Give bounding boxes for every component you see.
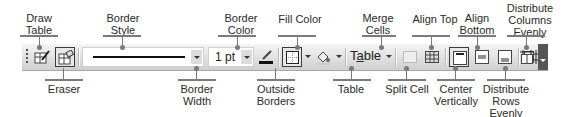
separator <box>345 48 346 66</box>
leader-line <box>45 79 83 81</box>
eraser-button[interactable] <box>55 47 75 67</box>
chevron-down-icon[interactable] <box>191 50 202 64</box>
fill-color-dropdown-arrow[interactable] <box>336 55 342 58</box>
table-menu-accelerator: a <box>357 48 364 63</box>
leader-line <box>178 79 216 81</box>
outside-borders-icon <box>285 50 301 66</box>
callout-eraser: Eraser <box>44 83 84 95</box>
draw-table-button[interactable] <box>32 47 52 67</box>
pencil-table-icon <box>34 49 50 65</box>
leader-dot <box>379 45 384 50</box>
center-vertically-icon <box>474 49 490 65</box>
callout-center-vertically: CenterVertically <box>430 83 482 107</box>
toolbar-options-chevron[interactable] <box>538 44 548 70</box>
callout-merge-cells: MergeCells <box>361 12 395 36</box>
callout-border-style: BorderStyle <box>104 12 142 36</box>
align-top-icon <box>452 50 468 66</box>
fill-color-button[interactable] <box>313 47 333 67</box>
border-width-value: 1 pt <box>215 50 235 64</box>
outside-borders-dropdown-arrow[interactable] <box>305 55 311 58</box>
leader-line <box>437 79 475 81</box>
eraser-icon <box>58 50 74 66</box>
callout-table: Table <box>331 83 371 95</box>
callout-outside-borders: OutsideBorders <box>253 83 299 107</box>
callout-fill-color: Fill Color <box>275 13 325 25</box>
table-menu-button[interactable]: Table <box>350 48 381 63</box>
leader-dot <box>429 45 434 50</box>
leader-dot <box>295 45 300 50</box>
center-vertically-button[interactable] <box>472 47 492 67</box>
leader-line <box>388 79 426 81</box>
split-cell-icon <box>424 49 440 65</box>
leader-line <box>333 79 371 81</box>
merge-cells-button[interactable] <box>400 47 420 67</box>
leader-dot <box>524 45 529 50</box>
callout-align-bottom: AlignBottom <box>457 12 497 36</box>
outside-borders-button[interactable] <box>282 47 302 67</box>
distribute-columns-icon <box>519 49 535 65</box>
callout-distribute-rows-evenly: DistributeRowsEvenly <box>481 83 531 117</box>
separator <box>445 48 446 66</box>
border-style-dropdown[interactable] <box>82 47 204 67</box>
chevron-down-icon[interactable] <box>241 50 252 64</box>
border-color-button[interactable] <box>256 47 276 67</box>
callout-distribute-columns-evenly: DistributeColumnsEvenly <box>505 2 555 38</box>
table-menu-label: ble <box>364 48 381 63</box>
border-width-dropdown[interactable]: 1 pt <box>208 47 254 67</box>
leader-dot <box>475 45 480 50</box>
callout-border-width: BorderWidth <box>177 83 217 107</box>
pen-color-icon <box>258 49 274 65</box>
paint-bucket-icon <box>315 49 331 65</box>
leader-line <box>487 79 525 81</box>
separator <box>395 48 396 66</box>
leader-dot <box>37 45 42 50</box>
chevron-down-icon[interactable] <box>386 55 392 58</box>
align-bottom-icon <box>497 49 513 65</box>
leader-dot <box>120 45 125 50</box>
callout-border-color: BorderColor <box>222 12 260 36</box>
align-bottom-button[interactable] <box>495 47 515 67</box>
separator <box>278 48 279 66</box>
toolbar-grip-handle[interactable] <box>26 49 28 65</box>
callout-split-cell: Split Cell <box>383 83 431 95</box>
split-cell-button[interactable] <box>422 47 442 67</box>
callout-align-top: Align Top <box>410 13 460 25</box>
align-top-button[interactable] <box>449 47 469 67</box>
leader-line <box>257 79 295 81</box>
callout-draw-table: DrawTable <box>24 12 54 36</box>
border-style-line-preview <box>93 56 185 58</box>
merge-cells-icon <box>402 49 418 65</box>
leader-dot <box>235 45 240 50</box>
tables-and-borders-toolbar: 1 pt Table <box>22 44 548 71</box>
leader-line <box>362 35 396 37</box>
distribute-columns-evenly-button[interactable] <box>517 47 537 67</box>
separator <box>78 48 79 66</box>
